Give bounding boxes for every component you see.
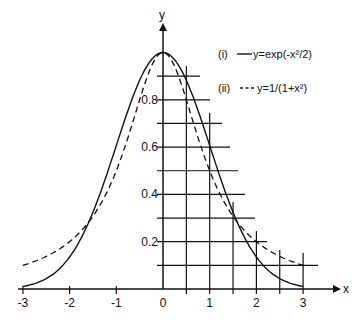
y-axis-arrow-icon — [159, 23, 167, 31]
y-tick-label: 0.2 — [141, 235, 158, 249]
x-tick-label: -2 — [64, 296, 75, 310]
y-tick-label: 0.4 — [141, 187, 158, 201]
grid-lines — [157, 66, 318, 294]
x-axis-label: x — [343, 282, 349, 296]
legend-item-1-id: (i) — [218, 48, 228, 60]
x-tick-label: 1 — [206, 296, 213, 310]
legend-item-2-id: (ii) — [218, 82, 230, 94]
x-tick-label: -3 — [18, 296, 29, 310]
x-tick-marks — [23, 286, 116, 294]
x-axis-arrow-icon — [333, 285, 341, 293]
legend-item-1-text: y=exp(-x²/2) — [253, 48, 312, 60]
chart-canvas: -3-2-101230.20.40.60.8 x y (i) y=exp(-x²… — [0, 0, 359, 320]
x-tick-label: -1 — [111, 296, 122, 310]
y-axis-label: y — [159, 8, 165, 22]
axes — [18, 23, 341, 293]
legend: (i) y=exp(-x²/2) (ii) y=1/(1+x²) — [218, 48, 312, 94]
y-tick-label: 0.6 — [141, 140, 158, 154]
legend-item-2-text: y=1/(1+x²) — [257, 82, 307, 94]
x-tick-label: 2 — [253, 296, 260, 310]
x-tick-label: 3 — [300, 296, 307, 310]
tick-labels: -3-2-101230.20.40.60.8 — [18, 93, 307, 310]
y-tick-label: 0.8 — [141, 93, 158, 107]
x-tick-label: 0 — [160, 296, 167, 310]
